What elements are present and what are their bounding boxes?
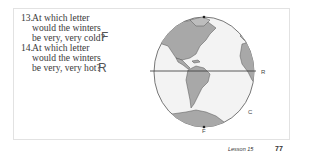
globe-illustration — [150, 14, 260, 132]
globe-label-c: C — [248, 109, 252, 115]
answer-13: F — [101, 30, 108, 44]
answer-14: R — [98, 61, 107, 75]
page-number: 77 — [275, 145, 283, 152]
globe-label-f: F — [202, 128, 206, 134]
globe-label-r: R — [261, 69, 265, 75]
question-text-line: be very, very hot? — [32, 63, 101, 73]
lesson-label: Lesson 15 — [228, 146, 253, 152]
